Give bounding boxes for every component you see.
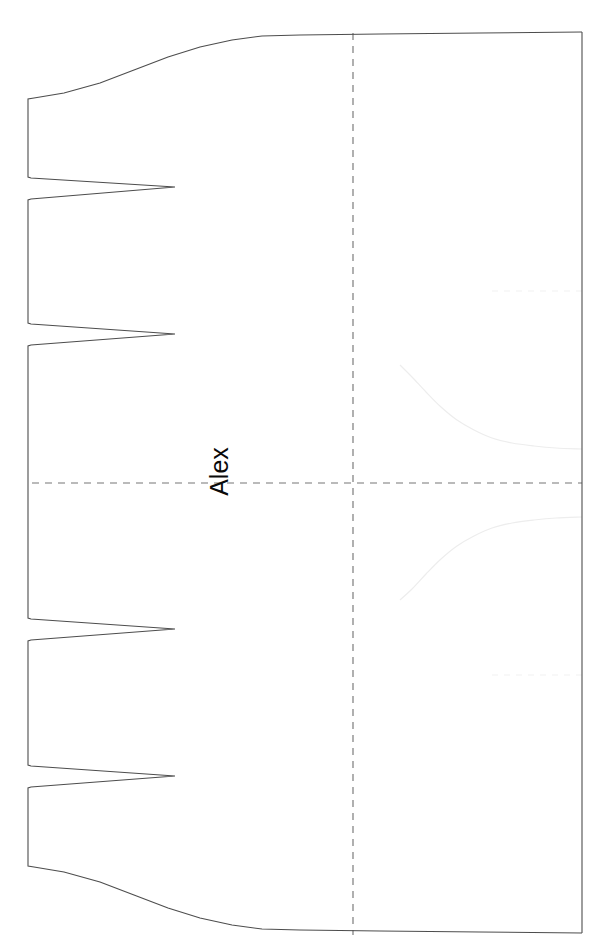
- crosshair-layer: [32, 33, 582, 935]
- figure-canvas: Alex: [0, 0, 609, 952]
- ghost-upper-curve: [400, 365, 582, 449]
- series-label-alex: Alex: [206, 447, 231, 496]
- ghost-lower-curve: [400, 517, 582, 600]
- chart-svg: [0, 0, 609, 952]
